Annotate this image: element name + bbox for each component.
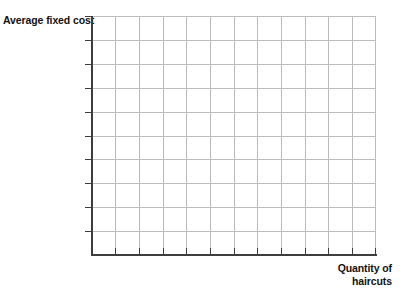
x-axis-label-line-2: haircuts — [272, 275, 392, 288]
x-axis-ticks — [116, 248, 376, 255]
axis-lines-and-ticks — [78, 10, 388, 280]
graph-figure: Average fixed cost — [0, 0, 400, 296]
y-axis-ticks — [85, 17, 92, 232]
y-axis-label: Average fixed cost — [3, 14, 89, 26]
x-axis-label: Quantity of haircuts — [272, 262, 392, 287]
x-axis-label-line-1: Quantity of — [272, 262, 392, 275]
